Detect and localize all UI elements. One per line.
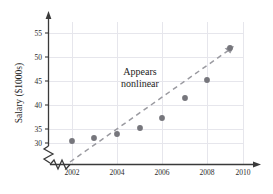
data-point (182, 95, 188, 101)
x-tick-label-2002: 2002 (59, 168, 85, 177)
data-point (159, 115, 165, 121)
data-point (204, 77, 210, 83)
chart-annotation: Appears nonlinear (98, 66, 182, 90)
x-tick-label-2010: 2010 (230, 168, 256, 177)
y-tick-label-35: 35 (22, 125, 42, 134)
grid-vertical (72, 22, 243, 165)
y-tick-label-55: 55 (22, 29, 42, 38)
x-axis-arrow-icon (253, 162, 261, 168)
y-tick-label-40: 40 (22, 101, 42, 110)
data-point (114, 131, 120, 137)
y-axis-break-icon (44, 146, 53, 163)
data-point (69, 138, 75, 144)
x-tick-label-2008: 2008 (194, 168, 220, 177)
x-tick-label-2004: 2004 (104, 168, 130, 177)
y-tick-label-30: 30 (22, 139, 42, 148)
y-axis-arrow-icon (46, 11, 52, 19)
x-tick-label-2006: 2006 (149, 168, 175, 177)
annotation-line-1: Appears (98, 66, 182, 78)
annotation-line-2: nonlinear (98, 78, 182, 90)
data-point (91, 135, 97, 141)
data-point (137, 125, 143, 131)
y-tick-label-50: 50 (22, 53, 42, 62)
y-tick-label-45: 45 (22, 77, 42, 86)
scatter-plot-figure: Salary ($1000s) 55 50 45 40 35 30 2002 2… (0, 0, 273, 194)
data-point (227, 45, 233, 51)
